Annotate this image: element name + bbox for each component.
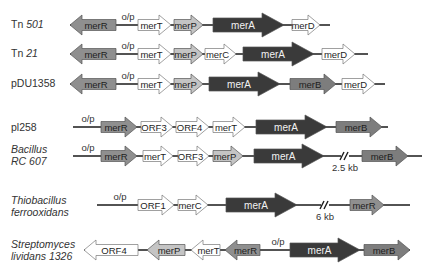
gene-label: ORF3 [141, 122, 166, 133]
gene-label: merA [244, 200, 268, 211]
gene-label: merB [373, 245, 396, 256]
gene-label: merA [227, 79, 251, 90]
gene-label: merT [140, 20, 162, 31]
gene-label: merR [104, 151, 127, 162]
gene-label: merA [308, 245, 332, 256]
gene-label: merT [144, 151, 166, 162]
operon-row: o/pmerRORF3ORF4merTmerAmerB [73, 113, 388, 139]
gene-label: merR [84, 79, 107, 90]
gene-label: merP [174, 49, 197, 60]
gene-label: merR [352, 200, 375, 211]
gene-label: merD [291, 20, 314, 31]
operator-promoter-label: o/p [81, 113, 94, 124]
operon-row: o/p6 kbORF1merCmerAmerR [97, 191, 410, 222]
gene-label: merA [261, 49, 285, 60]
operator-promoter-label: o/p [271, 236, 284, 247]
gene-label: merB [371, 151, 394, 162]
operator-promoter-label: o/p [81, 142, 94, 153]
gene-label: merD [324, 49, 347, 60]
gene-label: merA [231, 20, 255, 31]
gene-label: merD [344, 79, 367, 90]
gene-label: merP [174, 79, 197, 90]
gene-label: merR [84, 49, 107, 60]
operon-row: o/pmerRmerTmerPmerCmerAmerD [70, 40, 368, 66]
gene-label: merA [272, 151, 296, 162]
operon-row: o/p2.5 kbmerRmerTORF3merPmerAmerB [73, 142, 422, 173]
gene-label: merC [178, 200, 201, 211]
gap-size-label: 6 kb [316, 211, 334, 222]
gene-label: merB [299, 79, 322, 90]
gene-label: merR [104, 122, 127, 133]
gene-label: merA [274, 122, 298, 133]
gap-size-label: 2.5 kb [332, 162, 358, 173]
gene-label: merT [197, 245, 219, 256]
operator-promoter-label: o/p [113, 191, 126, 202]
gene-label: merR [84, 20, 107, 31]
gene-label: ORF1 [140, 200, 165, 211]
gene-label: merP [174, 20, 197, 31]
operator-promoter-label: o/p [121, 11, 134, 22]
gene-label: merT [215, 122, 237, 133]
operon-row: o/pORF4merPmerTmerRmerAmerB [84, 236, 410, 262]
operator-promoter-label: o/p [121, 70, 134, 81]
mer-operon-diagram: o/pmerRmerTmerPmerAmerDo/pmerRmerTmerPme… [0, 0, 435, 278]
gene-label: merR [234, 245, 257, 256]
gene-label: ORF4 [101, 245, 126, 256]
gene-label: merC [206, 49, 229, 60]
operon-row: o/pmerRmerTmerPmerAmerD [70, 11, 330, 37]
gene-label: ORF3 [178, 151, 203, 162]
gene-label: merB [345, 122, 368, 133]
gene-label: merT [140, 49, 162, 60]
gene-label: ORF4 [177, 122, 202, 133]
gene-label: merP [158, 245, 181, 256]
gene-label: merT [140, 79, 162, 90]
operon-row: o/pmerRmerTmerPmerAmerBmerD [70, 70, 385, 96]
operator-promoter-label: o/p [121, 40, 134, 51]
gene-label: merP [214, 151, 237, 162]
